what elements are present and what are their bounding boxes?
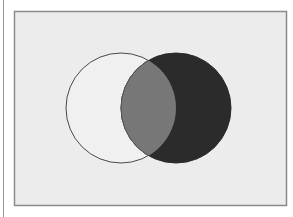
venn-diagram <box>0 0 293 217</box>
